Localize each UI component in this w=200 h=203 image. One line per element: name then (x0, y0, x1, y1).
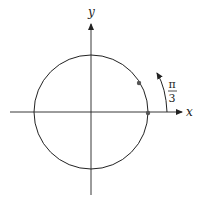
y-axis-label: y (87, 5, 95, 19)
point-angle-0 (146, 111, 150, 115)
angle-denominator: 3 (169, 92, 176, 105)
angle-numerator: π (168, 78, 175, 91)
point-angle-pi-over-3 (137, 81, 141, 85)
x-axis-label: x (186, 105, 193, 119)
angle-arc-arrow (157, 73, 167, 112)
unit-circle-diagram: x y π 3 (0, 0, 200, 203)
